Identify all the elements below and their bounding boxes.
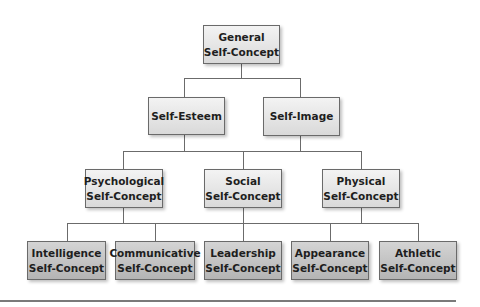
node-label-line1: Intelligence xyxy=(32,246,102,261)
node-label-line1: Psychological xyxy=(84,174,164,189)
node-intelligence-self-concept: Intelligence Self-Concept xyxy=(27,241,106,280)
connector-to-leadership xyxy=(243,223,244,241)
node-label-line1: General xyxy=(218,30,264,45)
node-self-esteem: Self-Esteem xyxy=(148,97,225,135)
node-label-line2: Self-Concept xyxy=(29,261,104,276)
node-label-line1: Communicative xyxy=(109,246,200,261)
connector-to-intelligence xyxy=(67,223,68,241)
connector-physical-down xyxy=(361,208,362,223)
connector-to-athletic xyxy=(418,223,419,241)
node-label-line1: Athletic xyxy=(395,246,441,261)
node-label-line1: Leadership xyxy=(210,246,276,261)
connector-level2-horizontal xyxy=(184,78,301,79)
node-label-line2: Self-Concept xyxy=(205,189,280,204)
node-psychological-self-concept: Psychological Self-Concept xyxy=(85,169,163,208)
node-athletic-self-concept: Athletic Self-Concept xyxy=(379,241,457,280)
node-self-image: Self-Image xyxy=(263,97,340,136)
connector-self-esteem-down xyxy=(184,134,185,151)
node-label-line2: Self-Concept xyxy=(86,189,161,204)
node-label-line2: Self-Concept xyxy=(117,261,192,276)
node-label-line1: Physical xyxy=(337,174,386,189)
node-label-line2: Self-Concept xyxy=(323,189,398,204)
node-appearance-self-concept: Appearance Self-Concept xyxy=(291,241,369,280)
bottom-divider xyxy=(0,300,456,302)
connector-psychological-down xyxy=(123,208,124,223)
node-label-line2: Self-Concept xyxy=(380,261,455,276)
node-label-line2: Self-Concept xyxy=(292,261,367,276)
node-label-line2: Self-Concept xyxy=(205,261,280,276)
connector-to-self-esteem xyxy=(184,78,185,97)
node-label-line2: Self-Concept xyxy=(204,45,279,60)
connector-to-psychological xyxy=(123,151,124,169)
node-label-line1: Social xyxy=(225,174,260,189)
connector-to-self-image xyxy=(300,78,301,97)
connector-self-image-down xyxy=(300,136,301,151)
node-social-self-concept: Social Self-Concept xyxy=(204,169,282,208)
connector-social-down xyxy=(243,208,244,223)
node-label: Self-Esteem xyxy=(151,109,222,124)
node-physical-self-concept: Physical Self-Concept xyxy=(322,169,400,208)
connector-root-down xyxy=(241,63,242,78)
connector-to-physical xyxy=(361,151,362,169)
connector-to-social xyxy=(243,151,244,169)
node-communicative-self-concept: Communicative Self-Concept xyxy=(115,241,195,280)
node-label-line1: Appearance xyxy=(295,246,365,261)
node-label: Self-Image xyxy=(270,109,334,124)
connector-to-appearance xyxy=(330,223,331,241)
connector-to-communicative xyxy=(155,223,156,241)
node-general-self-concept: General Self-Concept xyxy=(203,25,280,64)
node-leadership-self-concept: Leadership Self-Concept xyxy=(204,241,282,280)
